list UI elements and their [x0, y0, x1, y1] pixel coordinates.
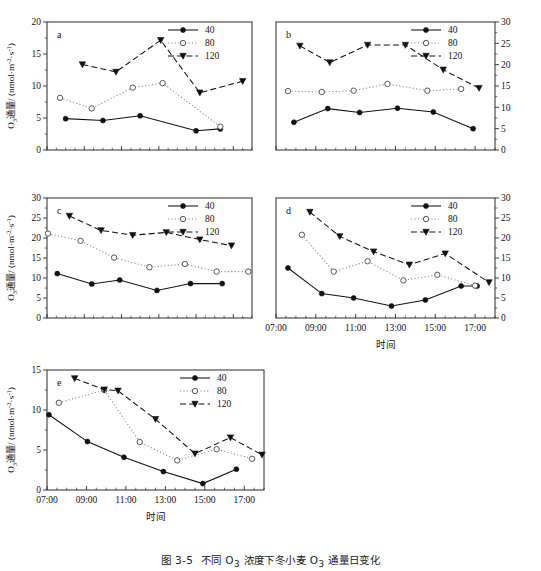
y-tick-label: 10 [501, 273, 511, 283]
legend-label: 80 [205, 214, 215, 224]
y-tick-label: 25 [32, 213, 42, 223]
legend-label: 120 [448, 227, 463, 237]
y-tick-label: 25 [501, 213, 511, 223]
y-tick-label: 30 [501, 193, 511, 203]
y-tick-label: 20 [32, 233, 42, 243]
y-tick-label: 10 [32, 81, 42, 91]
legend: 4080120 [411, 25, 463, 61]
y-tick-label: 0 [501, 145, 506, 155]
y-tick-label: 5 [501, 124, 506, 134]
x-tick-label: 11:00 [115, 495, 137, 505]
y-tick-label: 15 [32, 253, 42, 263]
legend-label: 80 [205, 38, 215, 48]
series-80 [57, 80, 223, 129]
panel-label: c [57, 205, 62, 216]
legend-label: 80 [448, 214, 458, 224]
legend-item-40[interactable]: 40 [168, 25, 215, 35]
x-axis-title: 时间 [146, 511, 166, 522]
series-80 [285, 81, 464, 95]
legend: 4080120 [411, 201, 463, 237]
panel-label: a [57, 29, 62, 40]
legend-label: 40 [205, 25, 215, 35]
y-tick-label: 20 [501, 233, 511, 243]
x-tick-label: 13:00 [155, 495, 177, 505]
legend-label: 120 [448, 51, 463, 61]
legend-item-40[interactable]: 40 [411, 25, 458, 35]
figure-caption: 图 3-5 不同 O3 浓度下冬小麦 O3 通量日变化 [0, 552, 541, 569]
x-axis-title: 时间 [376, 339, 396, 350]
legend-item-120[interactable]: 120 [411, 51, 463, 61]
x-tick-label: 17:00 [464, 323, 486, 333]
series-120 [79, 38, 246, 96]
chart-panel-a: 05101520O3通量/ (nmol·m-2·s-1)a4080120 [0, 0, 264, 186]
y-tick-label: 10 [501, 103, 511, 113]
legend-item-120[interactable]: 120 [168, 227, 220, 237]
legend-label: 40 [448, 25, 458, 35]
series-40 [291, 106, 475, 131]
plot-frame [47, 198, 252, 318]
y-tick-label: 0 [36, 313, 41, 323]
panel-label: d [286, 205, 291, 216]
y-tick-label: 15 [501, 81, 511, 91]
series-80 [45, 231, 251, 274]
series-40 [285, 266, 479, 309]
x-tick-label: 09:00 [76, 495, 98, 505]
legend-item-80[interactable]: 80 [168, 38, 215, 48]
y-tick-label: 10 [32, 405, 42, 415]
y-axis-title: O3通量/ (nmol·m-2·s-1) [5, 215, 18, 301]
legend-item-80[interactable]: 80 [180, 386, 227, 396]
legend-label: 40 [205, 201, 215, 211]
legend: 4080120 [168, 25, 220, 61]
y-tick-label: 0 [501, 313, 506, 323]
legend: 4080120 [168, 201, 220, 237]
legend-item-40[interactable]: 40 [411, 201, 458, 211]
panel-label: b [286, 29, 291, 40]
plot-c: 051015202530O3通量/ (nmol·m-2·s-1)c4080120 [0, 186, 264, 356]
plot-b: 051015202530b4080120 [264, 0, 541, 186]
y-tick-label: 5 [36, 293, 41, 303]
x-tick-label: 07:00 [36, 495, 58, 505]
plot-d: 05101520253007:0009:0011:0013:0015:0017:… [264, 186, 541, 356]
chart-panel-e: 05101507:0009:0011:0013:0015:0017:00时间O3… [0, 356, 290, 552]
y-tick-label: 5 [501, 293, 506, 303]
figure-root: 05101520O3通量/ (nmol·m-2·s-1)a4080120 051… [0, 0, 541, 571]
y-tick-label: 30 [32, 193, 42, 203]
y-tick-label: 15 [32, 49, 42, 59]
y-axis-title: O3通量/ (nmol·m-2·s-1) [5, 43, 18, 129]
y-tick-label: 20 [32, 17, 42, 27]
plot-frame [276, 198, 495, 318]
legend-item-40[interactable]: 40 [168, 201, 215, 211]
chart-panel-d: 05101520253007:0009:0011:0013:0015:0017:… [264, 186, 541, 356]
panel-label: e [57, 377, 62, 388]
legend-item-80[interactable]: 80 [411, 214, 458, 224]
x-tick-label: 17:00 [233, 495, 255, 505]
series-40 [46, 412, 238, 486]
legend-label: 80 [448, 38, 458, 48]
y-tick-label: 10 [32, 273, 42, 283]
y-tick-label: 5 [36, 113, 41, 123]
legend-item-80[interactable]: 80 [168, 214, 215, 224]
legend-label: 40 [448, 201, 458, 211]
legend-item-120[interactable]: 120 [411, 227, 463, 237]
y-tick-label: 20 [501, 60, 511, 70]
legend-label: 120 [205, 51, 220, 61]
y-tick-label: 5 [36, 445, 41, 455]
x-tick-label: 07:00 [265, 323, 287, 333]
series-120 [71, 376, 265, 458]
legend: 4080120 [180, 373, 232, 409]
y-tick-label: 30 [501, 17, 511, 27]
legend-item-80[interactable]: 80 [411, 38, 458, 48]
series-40 [63, 113, 223, 133]
legend-item-120[interactable]: 120 [180, 399, 232, 409]
plot-e: 05101507:0009:0011:0013:0015:0017:00时间O3… [0, 356, 290, 552]
plot-frame [47, 370, 264, 490]
x-tick-label: 11:00 [345, 323, 367, 333]
series-80 [299, 232, 478, 288]
y-axis-title: O3通量/ (nmol·m-2·s-1) [5, 387, 18, 473]
legend-label: 120 [217, 399, 232, 409]
y-tick-label: 0 [36, 145, 41, 155]
legend-item-40[interactable]: 40 [180, 373, 227, 383]
x-tick-label: 13:00 [385, 323, 407, 333]
legend-label: 80 [217, 386, 227, 396]
chart-panel-b: 051015202530b4080120 [264, 0, 541, 186]
